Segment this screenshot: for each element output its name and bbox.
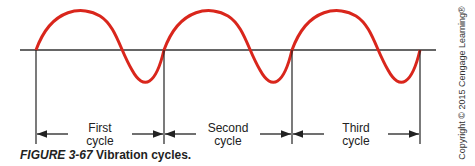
caption-text: Vibration cycles. [93, 148, 192, 162]
figure-caption: FIGURE 3-67 Vibration cycles. [20, 148, 191, 162]
third-cycle-label: Third cycle [321, 122, 391, 148]
first-cycle-label: First cycle [65, 122, 135, 148]
sine-wave [36, 11, 420, 83]
label-line2: cycle [321, 135, 391, 148]
second-cycle-label: Second cycle [193, 122, 263, 148]
copyright-notice: Copyright © 2015 Cengage Learning® [457, 6, 467, 159]
label-line2: cycle [65, 135, 135, 148]
figure-number: FIGURE 3-67 [20, 148, 93, 162]
label-line2: cycle [193, 135, 263, 148]
